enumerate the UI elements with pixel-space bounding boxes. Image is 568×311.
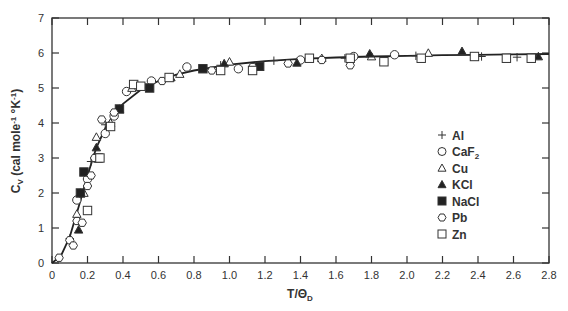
x-tick-label: 2.2 — [435, 269, 450, 281]
y-tick-label: 7 — [38, 12, 44, 24]
y-tick-label: 5 — [38, 82, 44, 94]
x-tick-label: 1.6 — [328, 269, 343, 281]
svg-text:Cu: Cu — [452, 162, 468, 176]
legend-item-nacl: NaCl — [438, 195, 479, 209]
svg-text:KCl: KCl — [452, 178, 473, 192]
svg-text:Zn: Zn — [452, 228, 467, 242]
x-tick-label: 0.6 — [151, 269, 166, 281]
y-tick-label: 1 — [38, 222, 44, 234]
x-tick-label: 0.2 — [80, 269, 95, 281]
x-tick-label: 1.0 — [222, 269, 237, 281]
legend-item-zn: Zn — [438, 228, 467, 242]
legend-item-cu: Cu — [438, 162, 468, 176]
legend-item-al: Al — [438, 129, 464, 143]
y-tick-label: 4 — [38, 117, 44, 129]
series-caf2 — [73, 51, 399, 205]
x-tick-label: 0.4 — [115, 269, 130, 281]
x-tick-label: 1.8 — [364, 269, 379, 281]
legend-item-pb: Pb — [438, 211, 467, 225]
svg-text:NaCl: NaCl — [452, 195, 479, 209]
x-tick-label: 1.4 — [293, 269, 308, 281]
y-axis-label: CV (cal mole-1 °K-1) — [9, 89, 25, 193]
y-tick-label: 6 — [38, 47, 44, 59]
svg-text:Pb: Pb — [452, 211, 467, 225]
x-tick-label: 0 — [49, 269, 55, 281]
legend-item-kcl: KCl — [438, 178, 473, 192]
y-tick-label: 2 — [38, 187, 44, 199]
x-tick-label: 0.8 — [186, 269, 201, 281]
x-tick-label: 2.6 — [506, 269, 521, 281]
x-tick-label: 2.0 — [399, 269, 414, 281]
svg-text:Al: Al — [452, 129, 464, 143]
svg-text:CaF2: CaF2 — [452, 145, 480, 161]
y-tick-label: 3 — [38, 152, 44, 164]
legend-item-caf2: CaF2 — [438, 145, 480, 161]
x-tick-label: 1.2 — [257, 269, 272, 281]
x-axis-label: T/ΘD — [287, 287, 313, 303]
chart: 00.20.40.60.81.01.21.41.61.82.02.22.42.6… — [0, 0, 568, 311]
legend: AlCaF2CuKClNaClPbZn — [438, 129, 480, 242]
y-tick-label: 0 — [38, 257, 44, 269]
x-tick-label: 2.4 — [470, 269, 485, 281]
x-tick-label: 2.8 — [541, 269, 556, 281]
